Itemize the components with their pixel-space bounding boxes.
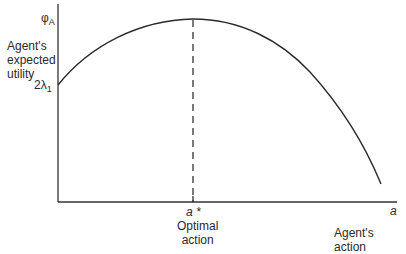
x-tick-label: a * [186, 205, 201, 219]
x-axis-title: Agent's action [334, 226, 406, 254]
y-tick-label: 2λ1 [34, 78, 52, 96]
y-axis-title: Agent's expected utility [7, 39, 56, 81]
y-axis-symbol: φA [41, 11, 55, 29]
x-axis-symbol: a [390, 204, 397, 218]
optimal-action-caption: Optimal action [177, 219, 218, 247]
utility-curve [58, 19, 381, 184]
